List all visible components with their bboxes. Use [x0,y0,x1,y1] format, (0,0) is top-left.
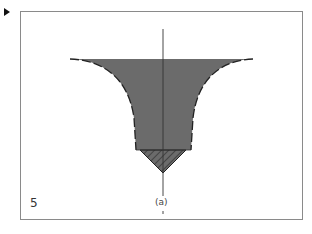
panel-number: 5 [30,196,38,210]
funnel-body [70,59,253,150]
figure-caption: (a) [155,197,168,207]
